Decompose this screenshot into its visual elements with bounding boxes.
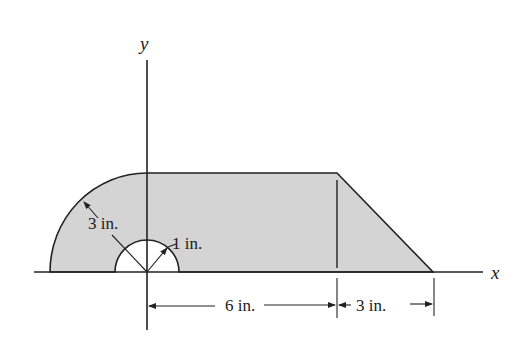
y-axis-label: y: [138, 33, 149, 54]
dim-3in-label: 3 in.: [356, 296, 386, 315]
x-axis-label: x: [490, 262, 500, 283]
area-diagram: x y 3 in. 1 in. 6 in. 3 in.: [0, 0, 525, 354]
dim-6in-label: 6 in.: [225, 296, 255, 315]
inner-radius-label: 1 in.: [172, 234, 202, 253]
inner-radius-arrow: [147, 248, 167, 272]
outer-radius-label: 3 in.: [88, 214, 118, 233]
